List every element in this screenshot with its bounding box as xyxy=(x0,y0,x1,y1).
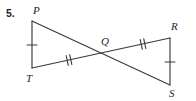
geometry-figure-container: 5. P T Q R S xyxy=(0,0,196,101)
vertex-label-T: T xyxy=(26,73,32,84)
vertex-label-R: R xyxy=(171,21,178,32)
vertex-label-P: P xyxy=(33,5,40,16)
vertex-label-S: S xyxy=(169,88,175,99)
geometry-diagram-svg xyxy=(0,0,196,101)
vertex-label-Q: Q xyxy=(101,36,109,47)
segments-group xyxy=(32,21,170,85)
